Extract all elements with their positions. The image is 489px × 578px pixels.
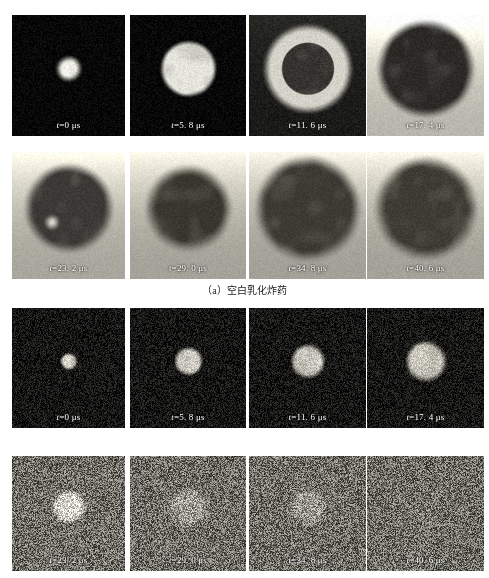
group-caption-a: （a）空白乳化炸药 (0, 285, 489, 297)
figure-root: t=0 μs t=5. 8 μs t=11. 6 μs t=17. 4 μs t… (0, 0, 489, 578)
frame-panel[interactable]: t=17. 4 μs (367, 15, 484, 136)
frame-panel[interactable]: t=11. 6 μs (249, 15, 366, 136)
frame-panel[interactable]: t=29. 0 μs (130, 152, 246, 279)
frame-panel[interactable]: t=11. 6 μs (249, 308, 366, 428)
frame-panel[interactable]: t=23. 2 μs (12, 456, 125, 571)
frame-panel[interactable]: t=40. 6 μs (367, 456, 484, 571)
frame-image (130, 152, 246, 279)
frame-panel[interactable]: t=0 μs (12, 15, 125, 136)
frame-image (249, 456, 366, 571)
frame-image (12, 456, 125, 571)
frame-panel[interactable]: t=34. 8 μs (249, 152, 366, 279)
frame-panel[interactable]: t=29. 0 μs (130, 456, 246, 571)
frame-image (249, 15, 366, 136)
frame-image (130, 15, 246, 136)
frame-image (12, 152, 125, 279)
frame-image (249, 308, 366, 428)
frame-image (367, 308, 484, 428)
frame-image (12, 15, 125, 136)
frame-image (249, 152, 366, 279)
frame-image (367, 152, 484, 279)
frame-panel[interactable]: t=17. 4 μs (367, 308, 484, 428)
frame-panel[interactable]: t=5. 8 μs (130, 308, 246, 428)
frame-image (367, 456, 484, 571)
frame-panel[interactable]: t=40. 6 μs (367, 152, 484, 279)
frame-image (367, 15, 484, 136)
frame-image (12, 308, 125, 428)
frame-panel[interactable]: t=34. 8 μs (249, 456, 366, 571)
frame-panel[interactable]: t=23. 2 μs (12, 152, 125, 279)
frame-image (130, 308, 246, 428)
frame-panel[interactable]: t=0 μs (12, 308, 125, 428)
frame-image (130, 456, 246, 571)
frame-panel[interactable]: t=5. 8 μs (130, 15, 246, 136)
